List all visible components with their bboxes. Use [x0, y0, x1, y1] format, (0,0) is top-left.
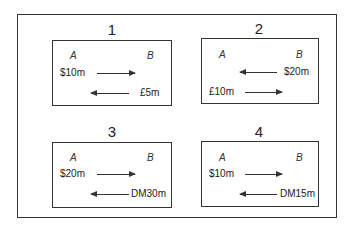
arrow-right-icon [97, 73, 135, 74]
arrow-left-icon [240, 72, 277, 73]
arrow-left-icon [240, 194, 277, 195]
arrow-right-icon [245, 92, 282, 93]
arrow-left-icon [91, 194, 129, 195]
flow-label-top: $10m [60, 67, 85, 78]
arrow-right-icon [97, 174, 135, 175]
panel-4-box: A B $10m DM15m [201, 141, 319, 207]
flow-label-top: $10m [209, 168, 234, 179]
flow-label-top: $20m [60, 168, 85, 179]
flow-label-bottom: DM15m [280, 188, 315, 199]
flow-label-top: $20m [284, 66, 309, 77]
panel-2-number: 2 [244, 20, 274, 37]
arrow-left-icon [91, 93, 129, 94]
panel-1-box: A B $10m £5m [52, 40, 172, 106]
panel-3-number: 3 [97, 123, 127, 140]
panel-2-box: A B $20m £10m [201, 38, 319, 104]
party-a-label: A [70, 152, 77, 163]
panel-3-box: A B $20m DM30m [52, 142, 172, 208]
party-b-label: B [147, 50, 154, 61]
party-a-label: A [219, 152, 226, 163]
party-a-label: A [219, 49, 226, 60]
flow-label-bottom: DM30m [131, 188, 166, 199]
flow-label-bottom: £5m [140, 87, 159, 98]
party-b-label: B [296, 49, 303, 60]
party-b-label: B [147, 152, 154, 163]
party-a-label: A [70, 50, 77, 61]
party-b-label: B [296, 152, 303, 163]
arrow-right-icon [245, 174, 282, 175]
panel-1-number: 1 [97, 21, 127, 38]
panel-4-number: 4 [244, 123, 274, 140]
flow-label-bottom: £10m [209, 86, 234, 97]
